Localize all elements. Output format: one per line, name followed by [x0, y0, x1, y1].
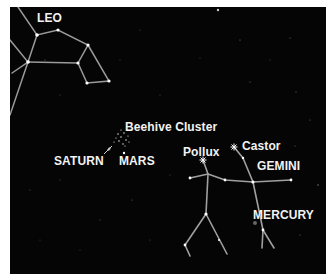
label-gemini: GEMINI: [257, 160, 300, 172]
saturn-marker: [104, 146, 112, 154]
label-mercury: MERCURY: [253, 209, 314, 221]
label-beehive-cluster: Beehive Cluster: [125, 121, 217, 133]
label-saturn: SATURN: [54, 155, 104, 167]
castor-star-icon: [231, 144, 238, 151]
label-leo: LEO: [37, 12, 62, 24]
label-mars: MARS: [119, 155, 155, 167]
label-pollux: Pollux: [183, 146, 220, 158]
label-castor: Castor: [242, 140, 281, 152]
leo-stars: [26, 28, 110, 84]
